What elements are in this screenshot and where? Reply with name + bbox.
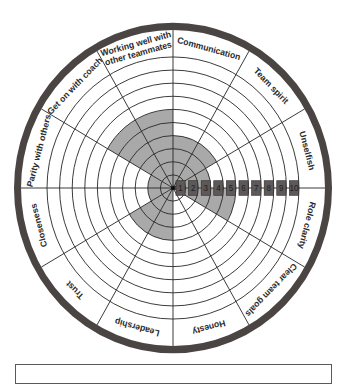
scale-number: 5 — [229, 184, 234, 193]
scale-box: 2 — [189, 181, 198, 196]
value-scale: 12345678910 — [171, 181, 299, 196]
scale-box: 6 — [239, 181, 248, 196]
scale-number: 8 — [267, 184, 272, 193]
wheel-root: CommunicationTeam spiritUnselfishRole cl… — [18, 26, 329, 349]
scale-number: 4 — [216, 184, 221, 193]
scale-box: 8 — [264, 181, 273, 196]
scale-box: 3 — [201, 181, 210, 196]
scale-number: 9 — [279, 184, 284, 193]
scale-box: 7 — [252, 181, 261, 196]
scale-box: 1 — [176, 181, 185, 196]
scale-number: 6 — [241, 184, 246, 193]
scale-number: 3 — [204, 184, 209, 193]
scale-number: 1 — [178, 184, 183, 193]
scale-number: 10 — [290, 184, 299, 193]
scale-box: 10 — [289, 181, 298, 196]
center-dot — [171, 186, 175, 191]
scale-box: 5 — [226, 181, 235, 196]
scale-number: 7 — [254, 184, 259, 193]
scale-box: 9 — [277, 181, 286, 196]
scale-box: 4 — [214, 181, 223, 196]
caption-box — [15, 364, 332, 384]
scale-number: 2 — [191, 184, 196, 193]
